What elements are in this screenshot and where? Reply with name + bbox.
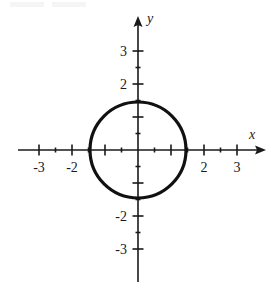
y-tick-label-neg2: -2 [115, 209, 127, 224]
x-tick-label-neg3: -3 [33, 160, 45, 175]
x-tick-label-pos3: 3 [234, 160, 241, 175]
y-tick-label-pos3: 3 [120, 44, 127, 59]
coordinate-plane: -3 -2 2 3 3 2 -2 -3 x y [0, 0, 274, 289]
y-axis-label: y [145, 11, 154, 26]
graph-figure: -3 -2 2 3 3 2 -2 -3 x y [0, 0, 274, 289]
y-tick-label-neg3: -3 [115, 242, 127, 257]
x-axis-label: x [248, 127, 256, 142]
y-tick-label-pos2: 2 [120, 77, 127, 92]
x-tick-label-neg2: -2 [66, 160, 78, 175]
x-tick-label-pos2: 2 [201, 160, 208, 175]
